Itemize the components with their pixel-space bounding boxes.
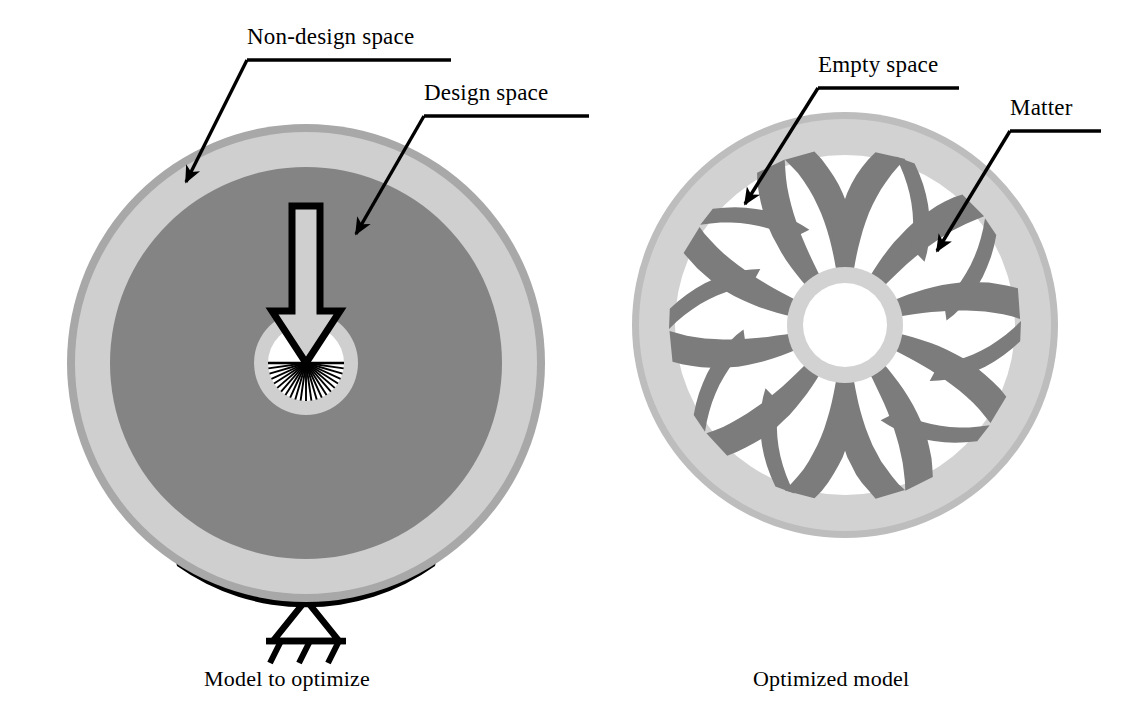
- right-hub-bore: [803, 283, 887, 367]
- left-wheel-model-to-optimize: [67, 124, 545, 663]
- label-non-design-space: Non-design space: [247, 24, 414, 50]
- support-hatch: [299, 641, 310, 663]
- right-wheel-optimized-model: [632, 112, 1058, 538]
- label-design-space: Design space: [424, 80, 548, 106]
- label-matter: Matter: [1010, 95, 1073, 121]
- caption-model-to-optimize: Model to optimize: [204, 666, 370, 692]
- support-hatch: [270, 641, 281, 663]
- wheel-diagram-svg: [0, 0, 1122, 718]
- label-empty-space: Empty space: [818, 52, 938, 78]
- support-hatch: [328, 641, 339, 663]
- caption-optimized-model: Optimized model: [753, 666, 909, 692]
- figure-canvas: Non-design space Design space Empty spac…: [0, 0, 1122, 718]
